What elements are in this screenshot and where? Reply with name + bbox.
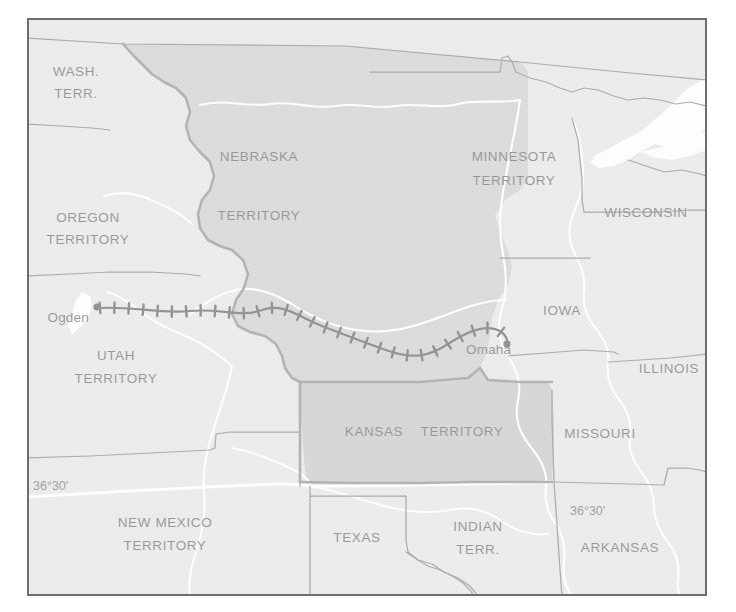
- paper-texture-overlay: [28, 19, 706, 595]
- map-canvas: WASH. TERR. OREGON TERRITORY UTAH TERRIT…: [0, 0, 736, 612]
- historical-map-figure: WASH. TERR. OREGON TERRITORY UTAH TERRIT…: [0, 0, 736, 612]
- map-body: WASH. TERR. OREGON TERRITORY UTAH TERRIT…: [28, 19, 706, 596]
